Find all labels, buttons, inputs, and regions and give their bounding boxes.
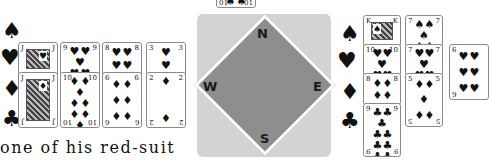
face-card-art: ♥ — [26, 49, 50, 69]
compass-west: W — [203, 79, 217, 94]
diamond-pips-icon: ♦♦♦♦♦ — [414, 77, 434, 123]
card-6-of-hearts[interactable]: 6 6 ♥♥♥♥♥♥ — [449, 44, 489, 100]
west-spades-label: ♠ — [2, 20, 22, 42]
card-9-of-clubs[interactable]: 9 9 9 9 ♣♣♣♣♣♣♣♣♣ — [363, 103, 401, 157]
compass-south: S — [260, 131, 269, 146]
card-5-of-diamonds[interactable]: 5 5 5 5 ♦♦♦♦♦ — [405, 73, 443, 127]
diamond-pips-icon: ♦♦ — [155, 76, 177, 124]
face-card-art: ♠ — [371, 22, 393, 40]
heart-pips-icon: ♥♥♥♥♥ — [372, 48, 392, 72]
card-jack-of-hearts[interactable]: J J ♥ — [18, 42, 58, 76]
east-hearts-label: ♥ — [337, 50, 357, 72]
west-hearts-label: ♥ — [0, 47, 20, 69]
card-10-of-diamonds[interactable]: 10 10 10 10 ♦♦♦♦♦♦♦♦♦♦ — [60, 72, 100, 128]
diamond-pips-icon: ♦♦♦♦♦♦ — [111, 76, 133, 124]
card-10-of-spades-north[interactable]: 10 10 ♠♠ — [216, 0, 256, 8]
card-3-of-hearts[interactable]: 3 3 ♥♥ — [146, 42, 186, 76]
heart-pips-icon: ♥♥♥♥ — [111, 46, 133, 72]
heart-pips-icon: ♥♥♥♥♥ — [414, 48, 434, 72]
spade-pips-icon: ♠♠♠♠♠ — [414, 19, 434, 43]
card-jack-of-diamonds[interactable]: J J J J ♦ — [18, 72, 58, 128]
spade-pips-icon: ♠♠ — [225, 0, 247, 7]
card-7-of-hearts[interactable]: 7 7 ♥♥♥♥♥ — [405, 44, 443, 76]
card-king-of-spades[interactable]: K K ♠ — [363, 15, 401, 47]
card-9-of-hearts[interactable]: 9 9 ♥♥♥♥♥ — [60, 42, 100, 76]
east-diamonds-label: ♦ — [340, 81, 360, 103]
club-pips-icon: ♣♣♣♣♣♣♣♣♣ — [372, 107, 392, 153]
card-8-of-diamonds[interactable]: 8 8 ♦♦♦♦ — [363, 73, 401, 105]
heart-pips-icon: ♥♥ — [155, 46, 177, 72]
east-clubs-label: ♣ — [340, 110, 360, 132]
compass-east: E — [313, 79, 322, 94]
card-10-of-hearts[interactable]: 10 10 ♥♥♥♥♥ — [363, 44, 401, 76]
heart-pips-icon: ♥♥♥♥♥♥ — [458, 48, 480, 96]
card-7-of-spades[interactable]: 7 7 ♠♠♠♠♠ — [405, 15, 443, 47]
card-8-of-hearts[interactable]: 8 8 ♥♥♥♥ — [102, 42, 142, 76]
east-spades-label: ♠ — [340, 23, 360, 45]
compass-north: N — [257, 26, 268, 41]
diamond-pips-icon: ♦♦♦♦♦♦♦♦♦♦ — [69, 76, 91, 124]
diamond-pips-icon: ♦♦♦♦ — [372, 77, 392, 101]
caption-text: one of his red-suit — [0, 138, 175, 157]
card-2-of-diamonds[interactable]: 2 2 2 2 ♦♦ — [146, 72, 186, 128]
heart-pips-icon: ♥♥♥♥♥ — [69, 46, 91, 72]
face-card-art: ♦ — [26, 79, 50, 121]
card-6-of-diamonds[interactable]: 6 6 6 6 ♦♦♦♦♦♦ — [102, 72, 142, 128]
